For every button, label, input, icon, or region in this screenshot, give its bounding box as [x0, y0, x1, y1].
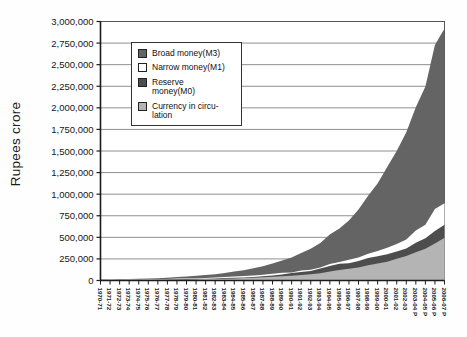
x-tick-label: 2000-01 [383, 288, 390, 311]
x-tick-label: 1980-81 [192, 288, 199, 311]
x-tick-label: 1982-83 [211, 288, 218, 311]
y-tick-label: 2,500,000 [51, 59, 93, 70]
x-tick-label: 1975-76 [144, 288, 151, 311]
legend-label: Narrow money(M1) [152, 63, 228, 73]
y-tick-label: 500,000 [59, 232, 93, 243]
legend-label: Broad money(M3) [152, 49, 228, 59]
x-tick-label: 1994-95 [326, 288, 333, 311]
x-tick-label: 2003-04 P [412, 288, 419, 317]
y-tick-label: 2,750,000 [51, 38, 93, 49]
currency-swatch-icon [138, 102, 147, 111]
x-tick-label: 2005-06 P [431, 288, 438, 317]
x-tick-label: 2001-02 [393, 288, 400, 311]
y-tick-label: 0 [88, 275, 93, 286]
x-tick-label: 1997-98 [355, 288, 362, 311]
legend-label: Reserve money(M0) [152, 78, 228, 98]
x-tick-label: 1992-93 [307, 288, 314, 311]
x-tick-label: 1999-00 [374, 288, 381, 311]
y-tick-label: 3,000,000 [51, 16, 93, 27]
x-tick-label: 1989-90 [278, 288, 285, 311]
x-tick-label: 1973-74 [125, 288, 132, 311]
x-tick-label: 1990-91 [288, 288, 295, 311]
x-tick-label: 1993-94 [316, 288, 323, 311]
legend-item-narrow-money: Narrow money(M1) [138, 63, 237, 73]
legend-label: Currency in circu-lation [152, 102, 228, 122]
broad-money-swatch-icon [138, 49, 147, 58]
x-tick-label: 2004-05 P [422, 288, 429, 317]
x-tick-label: 1983-84 [221, 288, 228, 311]
x-tick-label: 1970-71 [97, 288, 104, 311]
reserve-money-swatch-icon [138, 78, 147, 87]
x-tick-label: 1991-92 [297, 288, 304, 311]
y-tick-label: 1,750,000 [51, 124, 93, 135]
x-tick-label: 1974-75 [135, 288, 142, 311]
y-tick-label: 1,500,000 [51, 146, 93, 157]
x-tick-label: 1971-72 [106, 288, 113, 311]
y-tick-label: 1,000,000 [51, 189, 93, 200]
y-tick-label: 1,250,000 [51, 167, 93, 178]
x-tick-label: 1986-87 [250, 288, 257, 311]
legend-item-reserve-money: Reserve money(M0) [138, 78, 237, 98]
narrow-money-swatch-icon [138, 63, 147, 72]
x-tick-label: 1995-96 [336, 288, 343, 311]
y-tick-label: 250,000 [59, 253, 93, 264]
y-tick-label: 2,000,000 [51, 102, 93, 113]
x-tick-label: 1972-73 [116, 288, 123, 311]
money-supply-area-chart: Rupees crore 0250,000500,000750,0001,000… [0, 0, 467, 337]
y-tick-label: 2,250,000 [51, 81, 93, 92]
legend: Broad money(M3) Narrow money(M1) Reserve… [131, 42, 242, 126]
x-tick-label: 1984-85 [230, 288, 237, 311]
x-tick-label: 1985-86 [240, 288, 247, 311]
x-tick-label: 1996-97 [345, 288, 352, 311]
x-tick-label: 1978-79 [173, 288, 180, 311]
x-tick-label: 1998-99 [364, 288, 371, 311]
legend-item-currency-in-circulation: Currency in circu-lation [138, 102, 237, 122]
x-tick-label: 1981-82 [202, 288, 209, 311]
x-tick-label: 1988-89 [269, 288, 276, 311]
y-tick-label: 750,000 [59, 210, 93, 221]
x-tick-label: 2002-03 [402, 288, 409, 311]
x-tick-label: 1979-80 [183, 288, 190, 311]
legend-item-broad-money: Broad money(M3) [138, 49, 237, 59]
x-tick-label: 1987-88 [259, 288, 266, 311]
x-tick-label: 1977-78 [164, 288, 171, 311]
x-tick-label: 1976-77 [154, 288, 161, 311]
x-tick-label: 2006-07 P [441, 288, 448, 317]
